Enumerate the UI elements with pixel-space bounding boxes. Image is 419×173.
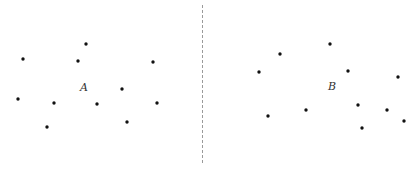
point-b-2 bbox=[328, 42, 331, 45]
point-a-10 bbox=[45, 125, 48, 128]
point-set-diagram: A B bbox=[0, 0, 419, 173]
point-b-7 bbox=[304, 108, 307, 111]
point-a-6 bbox=[52, 101, 55, 104]
point-b-11 bbox=[360, 126, 363, 129]
panel-a-label: A bbox=[79, 81, 88, 94]
point-b-1 bbox=[278, 52, 281, 55]
point-a-9 bbox=[155, 101, 158, 104]
point-a-3 bbox=[76, 59, 79, 62]
point-b-4 bbox=[346, 69, 349, 72]
point-b-6 bbox=[266, 114, 269, 117]
point-b-3 bbox=[257, 70, 260, 73]
point-a-2 bbox=[84, 42, 87, 45]
point-a-1 bbox=[21, 57, 24, 60]
point-b-9 bbox=[385, 108, 388, 111]
point-a-11 bbox=[125, 120, 128, 123]
point-b-5 bbox=[396, 75, 399, 78]
panel-b-label: B bbox=[327, 80, 336, 93]
point-b-8 bbox=[356, 103, 359, 106]
point-a-4 bbox=[151, 60, 154, 63]
point-b-10 bbox=[402, 119, 405, 122]
point-a-5 bbox=[16, 97, 19, 100]
point-a-8 bbox=[120, 87, 123, 90]
point-a-7 bbox=[95, 102, 98, 105]
